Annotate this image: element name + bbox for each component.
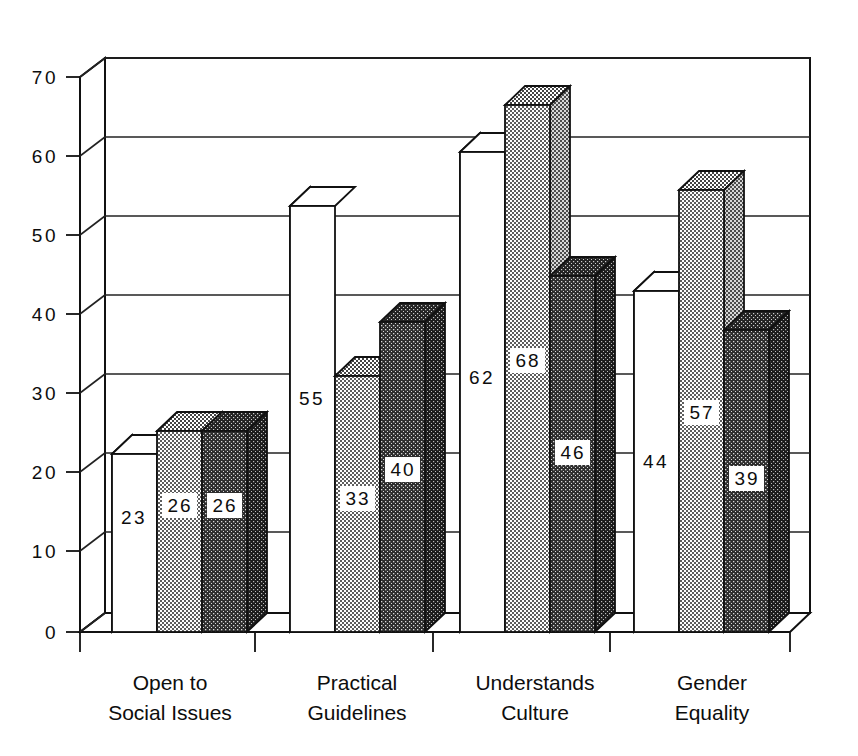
category-label-understands-culture: Understands Culture — [475, 671, 594, 724]
bar-value-label: 23 — [121, 507, 147, 528]
x-axis-category-labels: Open to Social Issues Practical Guidelin… — [108, 671, 750, 724]
y-tick-label-40: 40 — [32, 304, 58, 325]
bar-dark-39[interactable]: 39 — [724, 311, 789, 632]
y-tick-label-70: 70 — [32, 67, 58, 88]
bar-group-open-to-social-issues[interactable]: 23 26 26 — [112, 412, 267, 632]
bar-value-label: 26 — [167, 495, 192, 516]
bar-side-face — [769, 311, 789, 632]
category-label-line-2: Culture — [501, 701, 569, 724]
category-label-line-1: Gender — [677, 671, 747, 694]
bar-value-label: 26 — [212, 495, 237, 516]
category-label-practical-guidelines: Practical Guidelines — [307, 671, 406, 724]
bar-value-label: 57 — [689, 402, 714, 423]
bar-value-label: 68 — [515, 350, 540, 371]
bar-value-label: 46 — [560, 442, 585, 463]
category-label-gender-equality: Gender Equality — [675, 671, 750, 724]
y-tick-label-60: 60 — [32, 146, 58, 167]
bar-front-face — [157, 431, 202, 632]
category-label-line-1: Understands — [475, 671, 594, 694]
y-tick-label-20: 20 — [32, 462, 58, 483]
bar-chart-figure: 70 60 50 40 30 20 10 0 23 — [0, 0, 858, 756]
left-wall — [80, 58, 105, 632]
y-tick-label-50: 50 — [32, 225, 58, 246]
category-label-line-2: Equality — [675, 701, 750, 724]
bar-dark-46[interactable]: 46 — [550, 257, 615, 632]
category-label-open-to-social-issues: Open to Social Issues — [108, 671, 232, 724]
y-tick-label-10: 10 — [32, 541, 58, 562]
category-label-line-2: Social Issues — [108, 701, 232, 724]
bar-value-label: 44 — [643, 451, 669, 472]
y-tick-label-0: 0 — [45, 622, 58, 643]
bar-front-face — [460, 152, 505, 632]
y-tick-label-30: 30 — [32, 383, 58, 404]
y-axis-tick-labels: 70 60 50 40 30 20 10 0 — [32, 67, 58, 643]
category-label-line-1: Practical — [317, 671, 398, 694]
bar-value-label: 33 — [345, 488, 370, 509]
bar-side-face — [247, 412, 267, 632]
bar-side-face — [425, 303, 445, 632]
bar-dark-40[interactable]: 40 — [380, 303, 445, 632]
x-axis-ticks — [80, 632, 790, 652]
bar-value-label: 40 — [390, 459, 415, 480]
bar-value-label: 62 — [469, 367, 495, 388]
bar-side-face — [595, 257, 615, 632]
bar-front-face — [112, 454, 157, 632]
bar-value-label: 39 — [734, 468, 759, 489]
chart-canvas: 70 60 50 40 30 20 10 0 23 — [0, 0, 858, 756]
category-label-line-1: Open to — [133, 671, 208, 694]
bar-front-face — [290, 206, 335, 632]
bar-front-face — [202, 431, 247, 632]
bar-dark-26[interactable]: 26 — [202, 412, 267, 632]
bar-value-label: 55 — [299, 388, 325, 409]
category-label-line-2: Guidelines — [307, 701, 406, 724]
